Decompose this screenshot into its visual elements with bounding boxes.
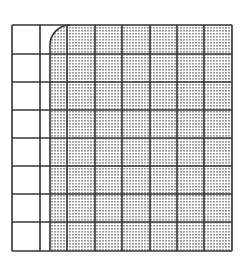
shaded-grid-diagram — [0, 0, 246, 265]
